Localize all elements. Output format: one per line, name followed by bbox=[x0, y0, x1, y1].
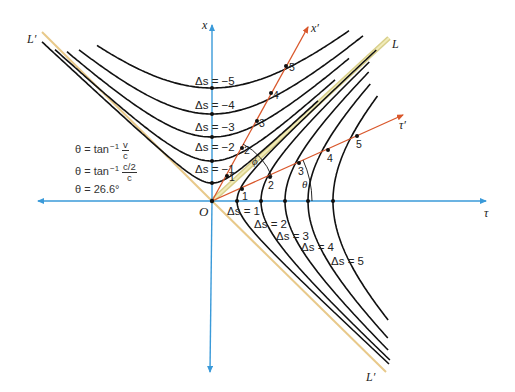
tau-prime-tick-1: 1 bbox=[242, 191, 248, 202]
hyperbola-label-neg4: Δs = −4 bbox=[195, 100, 235, 112]
equation-theta-value: θ = 26.6° bbox=[75, 184, 119, 195]
spacelike-hyperbola bbox=[308, 84, 388, 338]
tau-prime-axis-label: τ′ bbox=[399, 119, 406, 131]
theta-angle-label: θ bbox=[302, 179, 307, 190]
hyperbola-label-4: Δs = 4 bbox=[301, 242, 334, 254]
x-axis-label: x bbox=[202, 19, 207, 31]
tau-prime-tick-4: 4 bbox=[327, 153, 333, 164]
hyperbola-label-2: Δs = 2 bbox=[254, 219, 287, 231]
tau-axis-label: τ bbox=[484, 207, 488, 219]
x-prime-tick-4: 4 bbox=[273, 90, 279, 101]
light-cone-prime-upper-label: L′ bbox=[27, 33, 36, 45]
main-axes bbox=[38, 25, 486, 372]
hyperbola-label-1: Δs = 1 bbox=[227, 206, 260, 218]
fraction-c-half-over-c: c/2c bbox=[122, 162, 137, 182]
x-prime-tick-1: 1 bbox=[229, 172, 235, 183]
light-cone-label: L bbox=[392, 38, 399, 50]
equation-theta-definition: θ = tan−1vc bbox=[75, 140, 129, 160]
hyperbola-label-neg2: Δs = −2 bbox=[195, 142, 235, 154]
hyperbola-label-5: Δs = 5 bbox=[331, 256, 364, 268]
tau-prime-tick-2: 2 bbox=[268, 180, 274, 191]
x-prime-tick-2: 2 bbox=[244, 145, 250, 156]
light-cone-prime-lower-label: L′ bbox=[366, 371, 375, 383]
diagram-graphics bbox=[0, 0, 515, 392]
spacelike-hyperbola bbox=[333, 96, 388, 320]
x-prime-axis-label: x′ bbox=[311, 22, 319, 34]
hyperbola-label-neg3: Δs = −3 bbox=[195, 122, 235, 134]
x-prime-tick-3: 3 bbox=[259, 118, 265, 129]
spacetime-diagram: τ x τ′ x′ O L L′ L′ Δs = −5 Δs = −4 Δs =… bbox=[0, 0, 515, 392]
x-prime-tick-5: 5 bbox=[289, 62, 295, 73]
origin-label: O bbox=[199, 205, 208, 218]
equation-theta-substituted: θ = tan−1c/2c bbox=[75, 162, 137, 182]
hyperbola-label-neg5: Δs = −5 bbox=[195, 76, 235, 88]
tau-prime-tick-5: 5 bbox=[356, 139, 362, 150]
tau-prime-tick-3: 3 bbox=[298, 166, 304, 177]
fraction-v-over-c: vc bbox=[122, 140, 129, 160]
phi-angle-label: ϕ bbox=[252, 156, 258, 167]
